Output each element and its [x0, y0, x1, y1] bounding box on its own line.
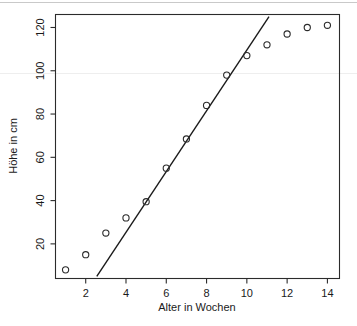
scatter-plot: 20406080100120 2468101214 Alter in Woche…: [0, 0, 357, 326]
data-point-marker: [264, 42, 270, 48]
y-axis-ticks: [51, 27, 56, 243]
data-points: [62, 22, 330, 273]
x-tick-label: 14: [321, 287, 333, 299]
data-point-marker: [224, 72, 230, 78]
y-tick-label: 20: [34, 238, 46, 250]
data-point-marker: [284, 31, 290, 37]
data-point-marker: [83, 252, 89, 258]
y-tick-label: 60: [34, 151, 46, 163]
regression-line: [97, 17, 269, 277]
y-tick-label: 40: [34, 194, 46, 206]
y-axis-title: Höhe in cm: [7, 118, 19, 174]
y-axis-tick-labels: 20406080100120: [34, 18, 46, 250]
x-tick-label: 2: [83, 287, 89, 299]
data-point-marker: [103, 230, 109, 236]
x-tick-label: 4: [123, 287, 129, 299]
y-tick-label: 100: [34, 62, 46, 80]
data-point-marker: [244, 53, 250, 59]
data-point-marker: [62, 267, 68, 273]
x-axis-title: Alter in Wochen: [158, 301, 235, 313]
regression-line-segment: [97, 17, 269, 277]
plot-frame: [56, 15, 340, 279]
x-tick-label: 6: [163, 287, 169, 299]
x-axis-ticks: [86, 279, 328, 284]
x-tick-label: 8: [204, 287, 210, 299]
chart-screenshot: 20406080100120 2468101214 Alter in Woche…: [0, 0, 357, 326]
y-tick-label: 80: [34, 108, 46, 120]
data-point-marker: [203, 102, 209, 108]
x-tick-label: 10: [241, 287, 253, 299]
x-axis-tick-labels: 2468101214: [83, 287, 334, 299]
x-tick-label: 12: [281, 287, 293, 299]
data-point-marker: [324, 22, 330, 28]
data-point-marker: [304, 24, 310, 30]
data-point-marker: [123, 215, 129, 221]
y-tick-label: 120: [34, 18, 46, 36]
